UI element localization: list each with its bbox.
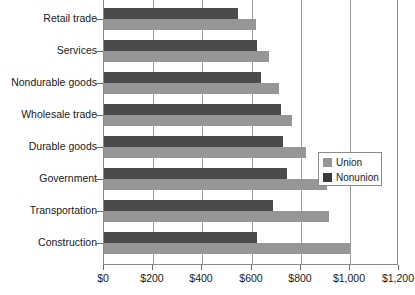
bar-group-retail-trade [104,8,397,30]
bar-union [104,51,269,62]
bar-nonunion [104,104,281,115]
x-tick-label: $400 [189,272,212,284]
plot-area [103,0,398,265]
x-tick-mark [349,265,350,270]
bar-nonunion [104,232,257,243]
bar-union [104,115,292,126]
legend-swatch-union-icon [323,158,332,167]
bar-group-construction [104,232,397,254]
category-tick [96,179,103,180]
x-tick-mark [398,265,399,270]
bar-union [104,83,279,94]
category-tick [96,83,103,84]
legend-label-nonunion: Nonunion [336,172,379,183]
category-label: Retail trade [0,12,97,24]
category-tick [96,51,103,52]
category-tick [96,115,103,116]
category-label: Durable goods [0,140,97,152]
x-tick-label: $0 [97,272,109,284]
x-tick-mark [201,265,202,270]
bar-nonunion [104,136,283,147]
category-label: Wholesale trade [0,108,97,120]
bar-group-nondurable-goods [104,72,397,94]
bar-union [104,147,306,158]
bar-union [104,179,327,190]
category-tick [96,243,103,244]
category-label: Transportation [0,204,97,216]
category-label: Nondurable goods [0,76,97,88]
category-label: Services [0,44,97,56]
bar-nonunion [104,200,273,211]
bar-union [104,243,350,254]
category-tick [96,19,103,20]
x-tick-label: $200 [140,272,163,284]
x-tick-label: $1,000 [333,272,365,284]
x-tick-label: $1,200 [382,272,414,284]
bar-chart: Retail tradeServicesNondurable goodsWhol… [0,0,415,295]
category-tick [96,211,103,212]
legend-item-union: Union [323,156,381,169]
bar-nonunion [104,8,238,19]
category-tick [96,147,103,148]
legend-label-union: Union [336,157,362,168]
bar-nonunion [104,40,257,51]
legend-item-nonunion: Nonunion [323,171,381,184]
x-tick-mark [152,265,153,270]
bar-group-transportation [104,200,397,222]
x-tick-label: $800 [288,272,311,284]
chart-legend: Union Nonunion [318,152,382,186]
x-tick-mark [103,265,104,270]
bar-nonunion [104,72,261,83]
x-tick-label: $600 [239,272,262,284]
bar-union [104,211,329,222]
category-label: Construction [0,236,97,248]
x-tick-mark [251,265,252,270]
legend-swatch-nonunion-icon [323,173,332,182]
bar-union [104,19,256,30]
bar-group-services [104,40,397,62]
x-tick-mark [300,265,301,270]
bar-nonunion [104,168,287,179]
category-label: Government [0,172,97,184]
bar-group-wholesale-trade [104,104,397,126]
